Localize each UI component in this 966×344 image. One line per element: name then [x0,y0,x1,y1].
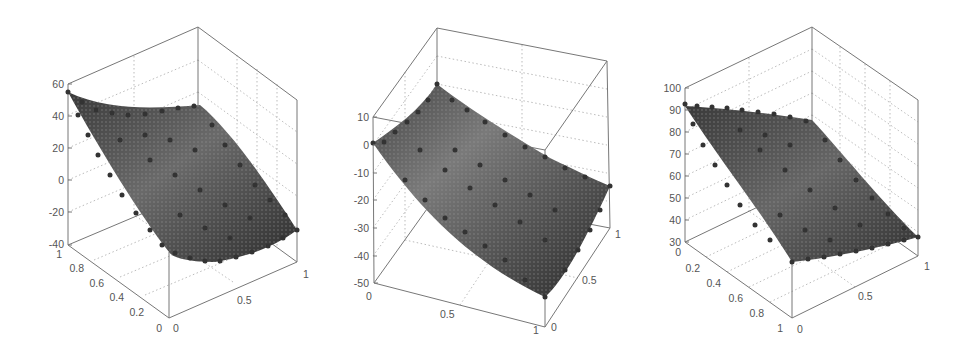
z-tick-label: 20 [52,142,64,154]
z-tick-label: 50 [669,192,681,204]
z-tick-label: 40 [669,214,681,226]
plot-1-z-tick-labels: 60 40 20 0 -20 -40 [49,78,72,250]
plot-2-left-tick-labels: 0 0.5 1 [366,290,539,336]
plot-1-right-axis [169,262,297,318]
right-tick-label: 0 [551,321,557,333]
left-tick-label: 0.2 [685,262,700,274]
plot-3-right-axis [792,256,918,318]
z-tick-label: 60 [52,78,64,90]
plot-2: 10 0 -10 -20 -30 -40 -50 0 0.5 1 0 0.5 1 [354,28,621,336]
z-tick-label: 100 [663,82,681,94]
plot-1-box-top-back [68,27,297,100]
z-tick-label: -20 [354,194,369,206]
z-tick-label: -10 [354,167,369,179]
right-tick-label: 0.5 [858,290,873,302]
left-tick-label: 1 [533,324,539,336]
left-tick-label: 0.2 [129,306,144,318]
right-tick-label: 0.5 [582,274,597,286]
left-tick-label: 1 [56,248,62,260]
left-tick-label: 1 [777,322,783,334]
z-tick-label: -20 [49,206,64,218]
plot-1-right-tick-labels: 0 0.5 1 [173,268,309,334]
plot-3-right-tick-labels: 0 0.5 1 [797,260,930,335]
left-tick-label: 0.4 [109,291,124,303]
plot-1-left-tick-labels: 1 0.8 0.6 0.4 0.2 0 [56,248,162,334]
figure-canvas: 60 40 20 0 -20 -40 1 0.8 0.6 0.4 0.2 0 0… [0,0,966,344]
z-tick-label: 40 [52,110,64,122]
left-tick-label: 0.8 [749,307,764,319]
plot-2-left-axis [374,283,545,327]
right-tick-label: 1 [924,260,930,272]
z-tick-label: -40 [354,250,369,262]
plot-3: 100 90 80 70 60 50 40 30 0 0.2 0.4 0.6 0… [663,27,930,335]
plot-3-left-axis [685,242,792,318]
left-tick-label: 0.4 [706,277,721,289]
right-tick-label: 1 [615,228,621,240]
right-tick-label: 1 [303,268,309,280]
z-tick-label: 10 [357,111,369,123]
right-tick-label: 0 [173,322,179,334]
left-tick-label: 0.8 [69,262,84,274]
left-tick-label: 0.6 [728,292,743,304]
plot-1: 60 40 20 0 -20 -40 1 0.8 0.6 0.4 0.2 0 0… [49,27,309,334]
plot-3-left-tick-labels: 0 0.2 0.4 0.6 0.8 1 [675,246,783,334]
right-tick-label: 0 [797,323,803,335]
left-tick-label: 0.6 [89,277,104,289]
z-tick-label: -50 [354,277,369,289]
z-tick-label: 0 [363,139,369,151]
left-tick-label: 0 [156,322,162,334]
left-tick-label: 0 [366,290,372,302]
z-tick-label: -30 [354,222,369,234]
right-tick-label: 0.5 [237,294,252,306]
z-tick-label: 60 [669,170,681,182]
plot-1-left-axis [68,245,169,318]
z-tick-label: 90 [669,104,681,116]
z-tick-label: 0 [58,174,64,186]
left-tick-label: 0.5 [440,308,455,320]
z-tick-label: 70 [669,148,681,160]
z-tick-label: 80 [669,126,681,138]
left-tick-label: 0 [675,246,681,258]
